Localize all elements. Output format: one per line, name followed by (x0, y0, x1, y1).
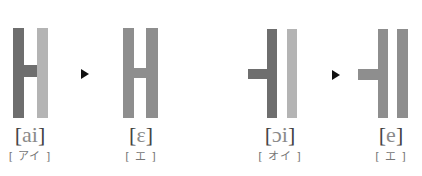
bracket-close: ] (38, 122, 45, 147)
ipa-label-oi: [ɔi] (250, 124, 310, 146)
bracket-open: [ (15, 122, 22, 147)
left-bar (13, 28, 24, 118)
stub (358, 69, 378, 80)
kana-label-e: [ エ ] (361, 151, 421, 163)
ipa-label-ai: [ai] (0, 124, 60, 146)
ipa-symbol: ai (22, 122, 38, 147)
ipa-symbol: ɔi (272, 122, 288, 147)
kana-label-ai: [ アイ ] (0, 151, 60, 163)
right-arrow-icon (81, 69, 89, 79)
bracket-close: ] (146, 122, 153, 147)
bracket-close: ] (288, 122, 295, 147)
stub (248, 69, 267, 79)
right-bar (287, 29, 297, 118)
ipa-symbol: ɛ (136, 122, 145, 147)
right-bar (37, 28, 48, 118)
left-bar (378, 29, 388, 118)
right-bar (397, 29, 408, 118)
kana-label-epsilon: [ エ ] (111, 151, 171, 163)
left-bar (123, 28, 134, 118)
crossbar (134, 68, 146, 78)
ipa-label-epsilon: [ɛ] (111, 124, 171, 146)
right-bar (146, 28, 158, 118)
bracket-close: ] (396, 122, 403, 147)
left-bar (267, 29, 277, 118)
bracket-open: [ (265, 122, 272, 147)
crossbar (24, 65, 37, 77)
right-arrow-icon (332, 70, 340, 80)
ipa-symbol: e (386, 122, 396, 147)
bracket-open: [ (379, 122, 386, 147)
ipa-label-e: [e] (361, 124, 421, 146)
kana-label-oi: [ オイ ] (250, 151, 310, 163)
